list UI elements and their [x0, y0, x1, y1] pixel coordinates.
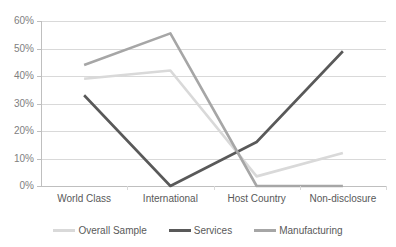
gridline: [41, 76, 386, 77]
gridline: [41, 159, 386, 160]
gridline: [41, 131, 386, 132]
legend-swatch-icon: [254, 229, 276, 232]
y-tick-mark: [37, 186, 41, 187]
legend-label: Services: [194, 225, 232, 236]
legend-label: Manufacturing: [279, 225, 342, 236]
y-axis-labels: 60%50%40%30%20%10%0%: [0, 0, 34, 247]
x-tick-mark: [300, 186, 301, 190]
y-axis-tick-label: 50%: [14, 44, 34, 54]
gridline: [41, 49, 386, 50]
legend-item[interactable]: Overall Sample: [53, 225, 146, 236]
legend-swatch-icon: [169, 229, 191, 232]
legend-swatch-icon: [53, 229, 75, 232]
gridline: [41, 21, 386, 22]
y-tick-mark: [37, 104, 41, 105]
y-axis-tick-label: 60%: [14, 16, 34, 26]
gridline: [41, 104, 386, 105]
y-axis-tick-label: 10%: [14, 154, 34, 164]
y-axis-tick-label: 20%: [14, 126, 34, 136]
x-tick-mark: [127, 186, 128, 190]
legend-label: Overall Sample: [78, 225, 146, 236]
y-tick-mark: [37, 76, 41, 77]
y-axis-tick-label: 30%: [14, 99, 34, 109]
y-axis-tick-label: 40%: [14, 71, 34, 81]
plot-area: [41, 21, 386, 186]
legend-item[interactable]: Manufacturing: [254, 225, 342, 236]
line-chart: 60%50%40%30%20%10%0% World ClassInternat…: [0, 0, 396, 247]
x-tick-mark: [386, 186, 387, 190]
y-tick-mark: [37, 49, 41, 50]
y-tick-mark: [37, 159, 41, 160]
y-axis-tick-label: 0%: [20, 181, 34, 191]
x-tick-mark: [214, 186, 215, 190]
y-axis-line: [41, 21, 42, 187]
legend-item[interactable]: Services: [169, 225, 232, 236]
y-tick-mark: [37, 21, 41, 22]
x-axis-tick-label: International: [143, 193, 198, 204]
x-axis-tick-label: Non-disclosure: [310, 193, 377, 204]
chart-legend: Overall SampleServicesManufacturing: [0, 220, 396, 240]
x-axis-tick-label: World Class: [57, 193, 111, 204]
x-axis-tick-label: Host Country: [227, 193, 285, 204]
y-tick-mark: [37, 131, 41, 132]
